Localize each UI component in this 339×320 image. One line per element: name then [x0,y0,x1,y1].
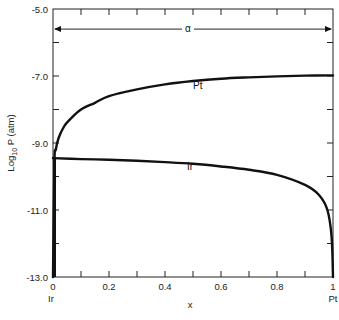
curve-label-ir: Ir [187,161,194,172]
alpha-label: α [185,23,191,34]
annotation-layer: PtIrα [54,23,332,172]
curve-ir [53,158,333,277]
chart: 00.20.40.60.81-5.0-7.0-9.0-11.0-13.0 PtI… [0,0,339,320]
x-end-label-pt: Pt [329,293,338,304]
x-tick-label: 0 [50,281,55,292]
tick-labels: 00.20.40.60.81-5.0-7.0-9.0-11.0-13.0 [26,4,335,293]
arrowhead-right-icon [325,26,332,32]
plot-border [53,9,333,277]
x-tick-label: 0.6 [214,281,227,292]
y-tick-label: -9.0 [32,138,48,149]
x-end-label-ir: Ir [48,293,54,304]
series-layer [53,75,333,277]
x-tick-label: 1 [330,281,335,292]
curve-pt [53,75,333,277]
x-tick-label: 0.8 [270,281,283,292]
curve-label-pt: Pt [193,80,203,91]
x-axis-title: x [188,299,193,310]
y-tick-label: -5.0 [32,4,48,15]
plot-frame [53,9,333,277]
y-tick-label: -7.0 [32,71,48,82]
y-tick-label: -13.0 [26,272,48,283]
y-axis-title: Log10 P (atm) [5,114,18,171]
x-tick-label: 0.2 [102,281,115,292]
y-tick-label: -11.0 [27,205,48,216]
arrowhead-left-icon [54,26,61,32]
x-tick-label: 0.4 [158,281,171,292]
ticks [53,9,333,277]
